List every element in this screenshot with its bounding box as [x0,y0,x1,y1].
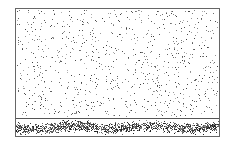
dense-noise-band [16,119,219,136]
sparse-dot-field [16,9,219,118]
figure-frame [15,8,220,137]
